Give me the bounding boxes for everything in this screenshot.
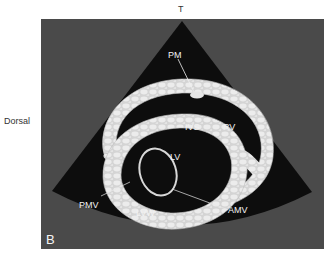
papillary-muscle	[190, 92, 204, 99]
label-pmv: PMV	[79, 200, 99, 210]
label-lv: LV	[170, 152, 180, 162]
label-rv: RV	[223, 122, 235, 132]
label-lvw: LVW	[136, 208, 155, 218]
label-pm: PM	[168, 50, 182, 60]
label-ivs: IVS	[185, 122, 200, 132]
orientation-dorsal-label: Dorsal	[4, 116, 30, 126]
label-amv: AMV	[228, 205, 248, 215]
orientation-top-label: T	[178, 4, 184, 14]
panel-letter: B	[46, 232, 55, 247]
echo-diagram-panel: PM IVS RV LV PMV LVW AMV B	[41, 19, 324, 249]
